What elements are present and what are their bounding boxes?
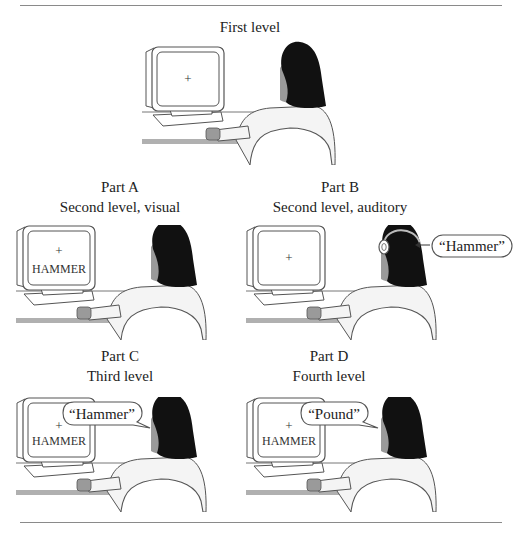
- screen-word: HAMMER: [32, 434, 86, 448]
- monitor-icon: + HAMMER: [17, 226, 95, 305]
- panel-first-scene: +: [140, 40, 380, 169]
- monitor-icon: +: [146, 47, 224, 126]
- panel-part-a-subtitle: Second level, visual: [30, 197, 210, 217]
- panel-part-c-title: Part C: [30, 346, 210, 366]
- person-icon: [206, 42, 335, 165]
- bottom-rule: [20, 522, 502, 523]
- audio-word: “Hammer”: [439, 238, 505, 254]
- screen-word: HAMMER: [262, 434, 316, 448]
- hand-icon: [77, 307, 91, 319]
- speech-bubble: “Pound”: [301, 402, 378, 428]
- screen-word: HAMMER: [32, 262, 86, 276]
- panel-first-title: First level: [160, 17, 340, 37]
- scene-part-a-illustration: + HAMMER: [14, 225, 244, 340]
- speech-bubble: “Hammer”: [63, 402, 150, 428]
- fixation-cross: +: [285, 418, 292, 433]
- scene-part-c-illustration: + HAMMER “Hammer”: [14, 397, 244, 512]
- panel-part-a-title: Part A: [30, 177, 210, 197]
- panel-part-d-scene: + HAMMER “Pound”: [244, 397, 474, 516]
- panel-part-b-caption: Part B Second level, auditory: [250, 177, 430, 217]
- panel-part-d-caption: Part D Fourth level: [239, 346, 419, 386]
- speech-word: “Pound”: [308, 406, 360, 422]
- audio-bubble: “Hammer”: [432, 235, 512, 257]
- fixation-cross: +: [184, 71, 191, 86]
- panel-part-c-scene: + HAMMER “Hammer”: [14, 397, 244, 516]
- hand-icon: [206, 128, 220, 140]
- hand-icon: [77, 479, 91, 491]
- panel-part-c-caption: Part C Third level: [30, 346, 210, 386]
- panel-part-b-title: Part B: [250, 177, 430, 197]
- scene-first-level-illustration: +: [140, 40, 380, 165]
- panel-part-b-scene: + “Hammer”: [244, 225, 518, 344]
- panel-part-d-title: Part D: [239, 346, 419, 366]
- monitor-icon: +: [247, 226, 325, 305]
- speech-word: “Hammer”: [69, 406, 135, 422]
- scene-part-b-illustration: + “Hammer”: [244, 225, 518, 340]
- panel-part-a-scene: + HAMMER: [14, 225, 244, 344]
- scene-part-d-illustration: + HAMMER “Pound”: [244, 397, 474, 512]
- panel-first-caption: First level: [160, 17, 340, 37]
- hand-icon: [307, 307, 321, 319]
- panel-part-a-caption: Part A Second level, visual: [30, 177, 210, 217]
- panel-part-c-subtitle: Third level: [30, 366, 210, 386]
- top-rule: [20, 5, 502, 6]
- hand-icon: [307, 479, 321, 491]
- panel-part-b-subtitle: Second level, auditory: [250, 197, 430, 217]
- panel-part-d-subtitle: Fourth level: [239, 366, 419, 386]
- fixation-cross: +: [55, 418, 62, 433]
- fixation-cross: +: [285, 250, 292, 265]
- fixation-cross: +: [55, 243, 62, 258]
